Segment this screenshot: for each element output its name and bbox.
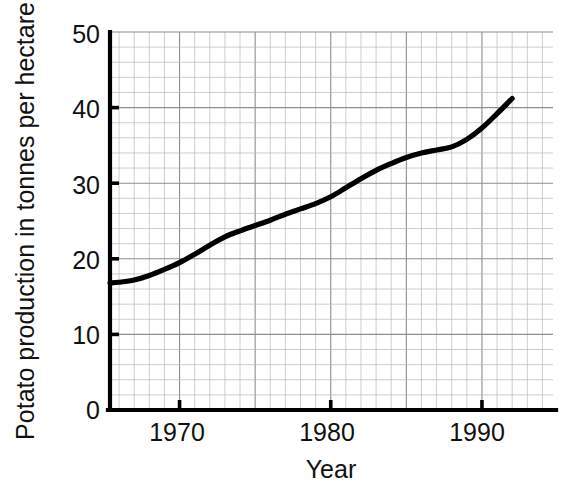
- x-tick-label-1970: 1970: [149, 418, 205, 446]
- chart-canvas: 50 40 30 20 10 0 1970 1980 1990 Year Pot…: [0, 0, 578, 494]
- y-axis-title: Potato production in tonnes per hectare: [11, 2, 39, 440]
- x-axis-title: Year: [306, 455, 357, 483]
- x-tick-label-1990: 1990: [449, 418, 505, 446]
- y-tick-label-40: 40: [72, 95, 100, 123]
- y-tick-label-50: 50: [72, 20, 100, 48]
- y-tick-label-30: 30: [72, 171, 100, 199]
- y-tick-label-0: 0: [86, 396, 100, 424]
- chart-figure: 50 40 30 20 10 0 1970 1980 1990 Year Pot…: [0, 0, 578, 494]
- y-tick-label-10: 10: [72, 321, 100, 349]
- x-tick-label-1980: 1980: [299, 418, 355, 446]
- y-tick-label-20: 20: [72, 246, 100, 274]
